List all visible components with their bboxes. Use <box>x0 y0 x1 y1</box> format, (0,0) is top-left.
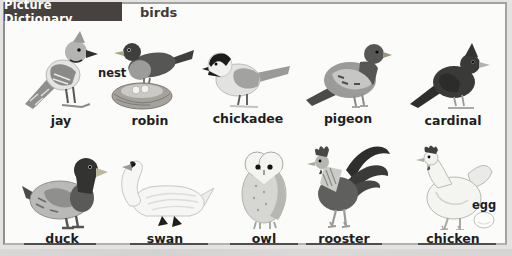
cardinal-illustration <box>406 40 500 112</box>
entry-cardinal: cardinal <box>406 40 500 128</box>
chicken-illustration <box>402 142 504 230</box>
picture-dictionary-badge: Picture Dictionary <box>4 2 122 21</box>
scan-artifact-strip <box>0 249 512 256</box>
picture-dictionary-page: Picture Dictionary birds jay <box>0 0 512 256</box>
entry-chicken: chicken <box>402 142 504 246</box>
owl-illustration <box>224 142 304 230</box>
label-chickadee: chickadee <box>213 111 284 126</box>
label-cardinal: cardinal <box>425 113 482 128</box>
rule-under-owl <box>230 243 298 245</box>
label-robin: robin <box>132 113 169 128</box>
rule-under-rooster <box>306 243 382 245</box>
rooster-illustration <box>296 138 392 230</box>
pigeon-illustration <box>302 32 394 110</box>
entry-duck: duck <box>16 142 108 246</box>
label-jay: jay <box>51 113 71 128</box>
chickadee-illustration <box>200 42 296 110</box>
entry-chickadee: chickadee <box>200 42 296 126</box>
duck-illustration <box>16 142 108 230</box>
rule-under-duck <box>24 243 96 245</box>
entry-jay: jay <box>18 28 104 128</box>
swan-illustration <box>112 146 218 230</box>
label-pigeon: pigeon <box>324 111 372 126</box>
rule-under-swan <box>130 243 208 245</box>
label-nest: nest <box>98 66 126 80</box>
label-egg: egg <box>472 198 496 212</box>
jay-illustration <box>18 28 104 112</box>
rule-under-chicken <box>418 243 496 245</box>
category-title: birds <box>140 5 177 20</box>
badge-title: Picture Dictionary <box>4 0 122 26</box>
entry-rooster: rooster <box>296 138 392 246</box>
entry-swan: swan <box>112 146 218 246</box>
entry-owl: owl <box>224 142 304 246</box>
entry-pigeon: pigeon <box>302 32 394 126</box>
